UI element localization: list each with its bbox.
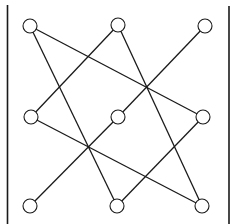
- node-center: [111, 110, 125, 124]
- node-middle-left: [24, 110, 38, 124]
- node-top-middle: [111, 18, 125, 32]
- edge-middle-right-to-bottom-middle: [117, 117, 203, 206]
- edge-top-right-to-center: [118, 26, 205, 117]
- node-bottom-middle: [110, 199, 124, 213]
- node-top-left: [23, 19, 37, 33]
- node-top-right: [198, 19, 212, 33]
- edge-top-left-to-bottom-middle: [30, 26, 117, 206]
- edge-center-to-bottom-left: [30, 117, 118, 206]
- edge-top-middle-to-bottom-right: [118, 25, 202, 206]
- node-bottom-left: [23, 199, 37, 213]
- edge-top-middle-to-middle-left: [31, 25, 118, 117]
- graph-diagram: [0, 0, 237, 224]
- node-middle-right: [196, 110, 210, 124]
- node-bottom-right: [195, 199, 209, 213]
- edge-middle-left-to-bottom-right: [31, 117, 202, 206]
- edge-top-left-to-middle-right: [30, 26, 203, 117]
